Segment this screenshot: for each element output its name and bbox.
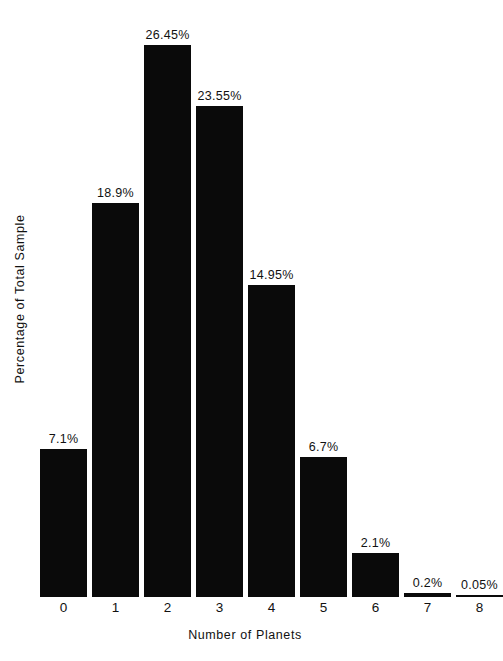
x-tick-6: 6 xyxy=(352,600,399,615)
bar-3[interactable] xyxy=(196,106,243,597)
bar-group-1: 18.9% xyxy=(92,0,139,597)
bar-value-label-8: 0.05% xyxy=(461,578,498,592)
x-tick-2: 2 xyxy=(144,600,191,615)
x-tick-7: 7 xyxy=(404,600,451,615)
plot-area: 7.1%18.9%26.45%23.55%14.95%6.7%2.1%0.2%0… xyxy=(40,0,465,597)
bar-7[interactable] xyxy=(404,593,451,597)
bar-value-label-2: 26.45% xyxy=(145,28,189,42)
x-tick-1: 1 xyxy=(92,600,139,615)
bar-group-7: 0.2% xyxy=(404,0,451,597)
bar-value-label-5: 6.7% xyxy=(309,440,339,454)
x-tick-0: 0 xyxy=(40,600,87,615)
bar-group-8: 0.05% xyxy=(456,0,503,597)
bar-4[interactable] xyxy=(248,285,295,597)
bar-group-3: 23.55% xyxy=(196,0,243,597)
x-tick-3: 3 xyxy=(196,600,243,615)
bar-value-label-4: 14.95% xyxy=(249,268,293,282)
x-axis-tick-labels: 012345678 xyxy=(40,600,465,622)
x-tick-8: 8 xyxy=(456,600,503,615)
bar-value-label-0: 7.1% xyxy=(49,432,79,446)
y-axis-title-text: Percentage of Total Sample xyxy=(13,214,27,383)
bar-0[interactable] xyxy=(40,449,87,597)
bar-group-5: 6.7% xyxy=(300,0,347,597)
bar-group-4: 14.95% xyxy=(248,0,295,597)
bar-value-label-6: 2.1% xyxy=(361,536,391,550)
bar-group-2: 26.45% xyxy=(144,0,191,597)
bar-5[interactable] xyxy=(300,457,347,597)
bar-value-label-7: 0.2% xyxy=(413,576,443,590)
x-tick-4: 4 xyxy=(248,600,295,615)
bar-group-6: 2.1% xyxy=(352,0,399,597)
y-axis-title: Percentage of Total Sample xyxy=(0,0,40,597)
bar-2[interactable] xyxy=(144,45,191,597)
bar-6[interactable] xyxy=(352,553,399,597)
bar-value-label-1: 18.9% xyxy=(97,186,134,200)
x-axis-title: Number of Planets xyxy=(40,628,450,642)
bar-8[interactable] xyxy=(456,595,503,597)
bar-value-label-3: 23.55% xyxy=(197,89,241,103)
x-tick-5: 5 xyxy=(300,600,347,615)
bar-group-0: 7.1% xyxy=(40,0,87,597)
bar-1[interactable] xyxy=(92,203,139,597)
